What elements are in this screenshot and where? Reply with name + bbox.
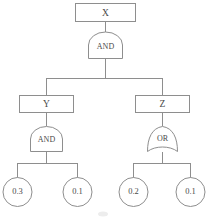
fault-tree-diagram: X AND Y Z AND OR 0.3 bbox=[0, 0, 206, 220]
node-leaf-1[interactable]: 0.3 bbox=[3, 178, 32, 207]
node-root-event[interactable]: X bbox=[76, 4, 136, 22]
scan-artifact bbox=[98, 212, 108, 217]
node-right-event[interactable]: Z bbox=[136, 96, 190, 113]
node-leaf-4[interactable]: 0.1 bbox=[176, 178, 205, 207]
node-leaf-3[interactable]: 0.2 bbox=[119, 178, 148, 207]
leaf-2-label: 0.1 bbox=[72, 186, 83, 196]
node-left-event[interactable]: Y bbox=[20, 96, 74, 113]
root-event-label: X bbox=[102, 8, 109, 18]
node-leaf-2[interactable]: 0.1 bbox=[63, 178, 92, 207]
node-root-gate[interactable]: AND bbox=[89, 32, 123, 59]
left-gate-label: AND bbox=[38, 135, 56, 144]
node-left-gate[interactable]: AND bbox=[31, 127, 63, 152]
leaf-4-label: 0.1 bbox=[185, 186, 196, 196]
root-gate-label: AND bbox=[97, 42, 115, 51]
left-event-label: Y bbox=[43, 99, 50, 109]
leaf-1-label: 0.3 bbox=[12, 186, 23, 196]
right-event-label: Z bbox=[160, 99, 166, 109]
right-gate-label: OR bbox=[157, 134, 169, 143]
node-right-gate[interactable]: OR bbox=[148, 127, 178, 152]
leaf-3-label: 0.2 bbox=[128, 186, 139, 196]
fault-tree-canvas: X AND Y Z AND OR 0.3 bbox=[0, 0, 206, 220]
